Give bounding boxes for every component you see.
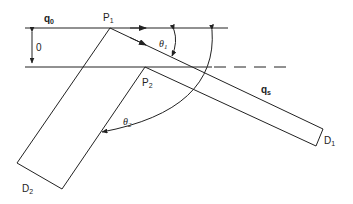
label-q0: q0 — [44, 14, 54, 25]
label-d2: D2 — [22, 184, 33, 195]
label-p1: P1 — [103, 13, 114, 24]
label-theta2-sub: 2 — [128, 121, 132, 129]
label-d1-sub: 1 — [331, 140, 335, 147]
label-thickness: 0 — [36, 43, 42, 53]
label-p1-main: P — [103, 12, 110, 23]
label-theta1: θ1 — [159, 39, 167, 51]
label-theta2: θ2 — [123, 117, 131, 129]
detector-d1-end — [316, 129, 323, 146]
label-p2: P2 — [142, 78, 153, 89]
scattering-diagram: q0 P1 0 θ1 P2 qs θ2 D1 D2 — [0, 0, 353, 204]
label-p2-main: P — [142, 77, 149, 88]
label-d2-sub: 2 — [29, 188, 33, 195]
scattered-beam-lower-edge — [145, 67, 316, 146]
d2-beam-right-edge — [62, 67, 145, 189]
label-qs-sub: s — [267, 89, 271, 96]
label-p2-sub: 2 — [149, 82, 153, 89]
label-qs: qs — [261, 85, 271, 96]
diagram-canvas — [0, 0, 353, 204]
label-d1: D1 — [324, 136, 335, 147]
d2-beam-left-edge — [17, 28, 110, 163]
label-p1-sub: 1 — [110, 17, 114, 24]
label-theta1-sub: 1 — [164, 43, 168, 51]
scattered-arrow — [130, 38, 146, 46]
theta1-arc — [172, 30, 176, 56]
label-q0-sub: 0 — [50, 18, 54, 25]
theta2-arc — [102, 30, 212, 132]
